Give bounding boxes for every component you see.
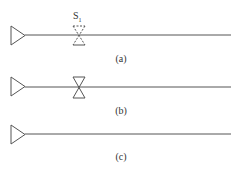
caption-c: (c) [115,152,126,162]
switch-label-subscript: 1 [79,17,82,23]
panel-a [11,26,231,45]
source-triangle-icon [11,26,25,45]
source-triangle-icon [11,125,25,144]
caption-a: (a) [115,54,126,64]
switch-label-s1: S1 [73,11,82,23]
caption-b: (b) [115,106,127,116]
source-triangle-icon [11,77,25,96]
diagram-canvas [0,0,239,170]
panel-c [11,125,231,144]
panel-b [11,77,231,98]
